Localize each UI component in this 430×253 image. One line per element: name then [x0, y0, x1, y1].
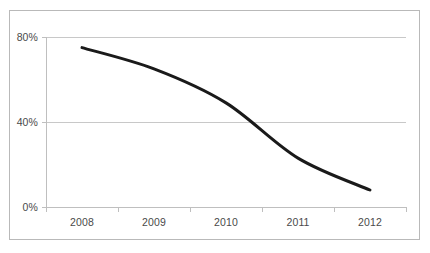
x-tick-label-2009: 2009 — [118, 216, 190, 228]
data-series-line — [82, 48, 370, 190]
x-tick-label-2010: 2010 — [190, 216, 262, 228]
y-tick-label-80: 80% — [4, 31, 38, 43]
x-tick-label-2011: 2011 — [262, 216, 334, 228]
x-tick-label-2012: 2012 — [334, 216, 406, 228]
x-tick-label-2008: 2008 — [46, 216, 118, 228]
y-tick-label-40: 40% — [4, 116, 38, 128]
y-tick-label-0: 0% — [4, 201, 38, 213]
